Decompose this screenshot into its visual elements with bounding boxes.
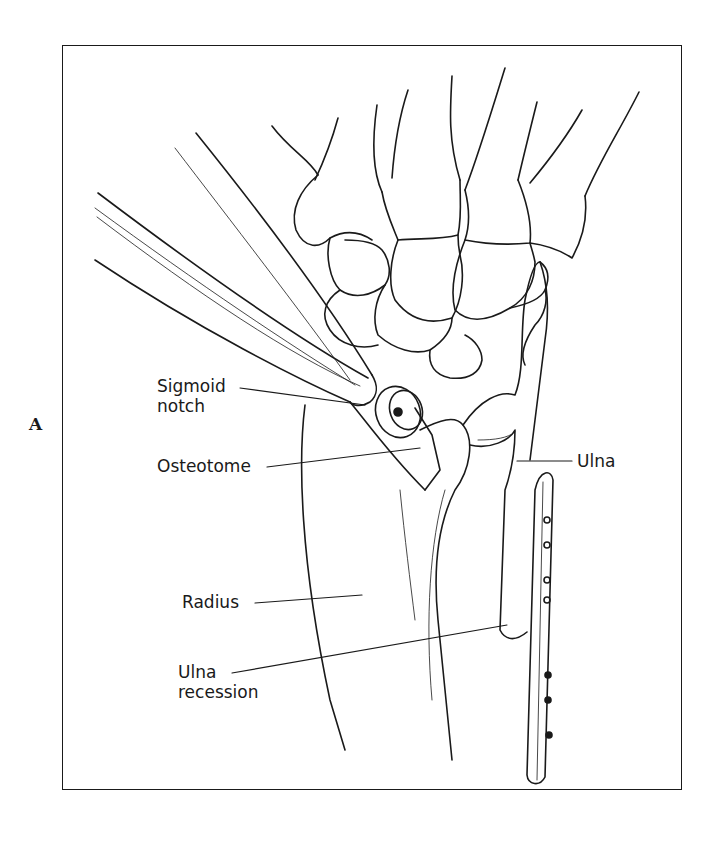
- leader-sigmoid-notch: [240, 388, 365, 405]
- carpal-bones: [294, 175, 586, 378]
- fixation-plate: [527, 473, 553, 784]
- label-sigmoid-notch-line2: notch: [157, 396, 226, 416]
- osteotome-instrument: [95, 133, 440, 490]
- panel-letter: A: [29, 414, 42, 434]
- label-ulna-recession-line2: recession: [178, 682, 259, 702]
- label-sigmoid-notch-line1: Sigmoid: [157, 376, 226, 396]
- metacarpals: [272, 68, 639, 196]
- radius-bone: [302, 405, 470, 760]
- leader-radius: [255, 595, 362, 603]
- label-radius: Radius: [182, 592, 239, 612]
- label-ulna-recession: Ulna recession: [178, 662, 259, 702]
- label-ulna-recession-line1: Ulna: [178, 662, 259, 682]
- leader-lines: [232, 388, 572, 673]
- label-osteotome: Osteotome: [157, 456, 251, 476]
- leader-ulna-recession: [232, 625, 507, 673]
- label-ulna: Ulna: [577, 451, 615, 471]
- leader-osteotome: [267, 448, 420, 467]
- label-sigmoid-notch: Sigmoid notch: [157, 376, 226, 416]
- wrist-anatomy-illustration: [0, 0, 705, 851]
